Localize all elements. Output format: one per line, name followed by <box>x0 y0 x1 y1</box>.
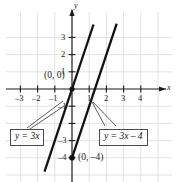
y-tick-label--4: –4 <box>58 153 67 162</box>
y-tick-label-3: 3 <box>61 33 65 42</box>
x-tick-label-4: 4 <box>138 94 142 103</box>
y-tick-label--3: –3 <box>58 136 67 145</box>
point-label-y-intercept: (0, –4) <box>78 153 103 163</box>
x-tick-label--3: –3 <box>15 94 24 103</box>
x-tick-label-3: 3 <box>121 94 125 103</box>
x-tick-label--1: –1 <box>49 94 58 103</box>
y-tick-label-2: 2 <box>61 50 65 59</box>
x-axis-label: x <box>167 84 171 92</box>
point-origin <box>69 86 74 91</box>
coordinate-plane-figure: x y –3 –2 –1 1 2 3 4 3 2 1 –1 –3 –4 (0, … <box>0 0 178 182</box>
point-label-origin: (0, 0) <box>44 71 65 81</box>
y-axis-arrow <box>69 9 74 16</box>
x-tick-label--2: –2 <box>32 94 41 103</box>
x-tick-label-1: 1 <box>87 94 91 103</box>
x-tick-label-2: 2 <box>104 94 108 103</box>
x-axis-arrow <box>159 86 166 91</box>
leader-lines-right <box>92 102 116 126</box>
point-y-intercept <box>69 155 75 161</box>
callout-right-equation: y = 3x – 4 <box>99 129 148 146</box>
y-axis-label: y <box>74 2 78 10</box>
callout-left-equation: y = 3x <box>10 129 44 146</box>
y-tick-label--1: –1 <box>58 102 67 111</box>
